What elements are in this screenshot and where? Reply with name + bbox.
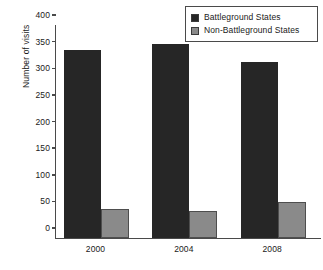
y-axis-tick-mark [52, 201, 56, 203]
bar-battleground-2004 [152, 44, 189, 238]
y-axis-tick-label: 350 [36, 37, 50, 47]
y-axis-tick-label: 50 [40, 196, 50, 206]
y-axis-tick: 400 [36, 10, 56, 20]
y-axis-tick: 250 [36, 90, 56, 100]
y-axis-tick-mark [52, 227, 56, 229]
y-axis-tick-label: 250 [36, 90, 50, 100]
y-axis-tick-label: 300 [36, 63, 50, 73]
y-axis-tick: 50 [40, 196, 56, 206]
y-axis-tick: 350 [36, 37, 56, 47]
y-axis-tick-mark [52, 147, 56, 149]
y-axis-tick: 300 [36, 63, 56, 73]
y-axis-tick: 0 [45, 223, 56, 233]
bar-battleground-2000 [64, 50, 101, 238]
y-axis-tick-label: 200 [36, 117, 50, 127]
x-axis-label-2008: 2008 [263, 244, 282, 254]
y-axis-tick-label: 150 [36, 143, 50, 153]
y-axis-tick-label: 400 [36, 10, 50, 20]
y-axis-tick: 100 [36, 170, 56, 180]
plot-area: 050100150200250300350400 [55, 25, 321, 239]
y-axis-tick-mark [52, 14, 56, 16]
legend-item-battleground-states: Battleground States [191, 11, 312, 24]
y-axis-tick: 150 [36, 143, 56, 153]
y-axis-tick-mark [52, 41, 56, 43]
y-axis-title-text: Number of visits [21, 25, 31, 88]
y-axis-tick: 200 [36, 117, 56, 127]
x-axis-label-2004: 2004 [174, 244, 193, 254]
bar-battleground-2008 [241, 62, 278, 238]
y-axis-tick-mark [52, 121, 56, 123]
bar-chart: Battleground States Non-Battleground Sta… [0, 0, 323, 270]
y-axis-tick-mark [52, 68, 56, 70]
bar-non-battleground-2008 [278, 202, 306, 238]
y-axis-tick-label: 100 [36, 170, 50, 180]
legend-swatch-dark-square-icon [191, 14, 199, 22]
bar-non-battleground-2000 [101, 209, 129, 238]
y-axis-tick-mark [52, 94, 56, 96]
y-axis-tick-mark [52, 174, 56, 176]
x-axis-label-2000: 2000 [86, 244, 105, 254]
legend-label-battleground-states: Battleground States [204, 12, 281, 23]
bar-non-battleground-2004 [189, 211, 217, 238]
y-axis-tick-label: 0 [45, 223, 50, 233]
